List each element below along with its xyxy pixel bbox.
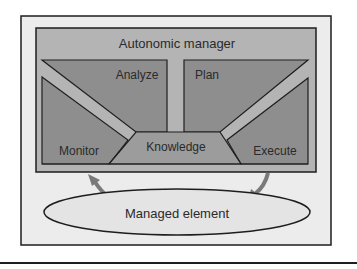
plan-label: Plan bbox=[195, 68, 219, 82]
monitor-label: Monitor bbox=[59, 144, 99, 158]
knowledge-label: Knowledge bbox=[146, 140, 206, 154]
execute-label: Execute bbox=[253, 144, 297, 158]
autonomic-manager-diagram: Autonomic manager Analyze Plan Monitor E… bbox=[0, 0, 357, 269]
managed-element-label: Managed element bbox=[125, 206, 229, 221]
analyze-label: Analyze bbox=[116, 68, 159, 82]
autonomic-manager-title: Autonomic manager bbox=[119, 36, 236, 51]
